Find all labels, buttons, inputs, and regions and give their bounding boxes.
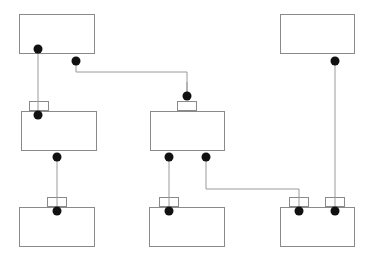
connection-dot-9[interactable] bbox=[53, 207, 62, 216]
box-top-left[interactable] bbox=[20, 15, 95, 54]
box-mid-center[interactable] bbox=[151, 102, 225, 151]
box-mid-center-port-tab-1[interactable] bbox=[178, 102, 197, 111]
connection-dot-12[interactable] bbox=[331, 207, 340, 216]
box-bottom-right-body[interactable] bbox=[281, 208, 355, 247]
box-top-left-body[interactable] bbox=[20, 15, 95, 54]
connection-dot-6[interactable] bbox=[53, 153, 62, 162]
box-mid-left[interactable] bbox=[22, 102, 97, 151]
connection-dot-7[interactable] bbox=[165, 153, 174, 162]
conn-midcenter-to-bottomright-line bbox=[206, 157, 299, 211]
connection-dot-5[interactable] bbox=[183, 92, 192, 101]
box-top-right-body[interactable] bbox=[281, 15, 355, 54]
box-bottom-center[interactable] bbox=[150, 198, 225, 247]
connection-dot-4[interactable] bbox=[34, 111, 43, 120]
box-top-right[interactable] bbox=[281, 15, 355, 54]
box-mid-left-body[interactable] bbox=[22, 112, 97, 151]
connection-dot-10[interactable] bbox=[165, 207, 174, 216]
boxes-layer bbox=[20, 15, 355, 247]
connection-dot-2[interactable] bbox=[72, 57, 81, 66]
box-mid-center-body[interactable] bbox=[151, 112, 225, 151]
box-bottom-right[interactable] bbox=[281, 198, 355, 247]
connection-dot-1[interactable] bbox=[34, 45, 43, 54]
connection-dot-11[interactable] bbox=[295, 207, 304, 216]
conn-topleft-to-midcenter-line bbox=[76, 61, 187, 96]
box-mid-left-port-tab-1[interactable] bbox=[30, 102, 49, 111]
diagram-canvas bbox=[0, 0, 372, 262]
box-bottom-center-body[interactable] bbox=[150, 208, 225, 247]
connection-dot-8[interactable] bbox=[202, 153, 211, 162]
connection-dot-3[interactable] bbox=[331, 57, 340, 66]
